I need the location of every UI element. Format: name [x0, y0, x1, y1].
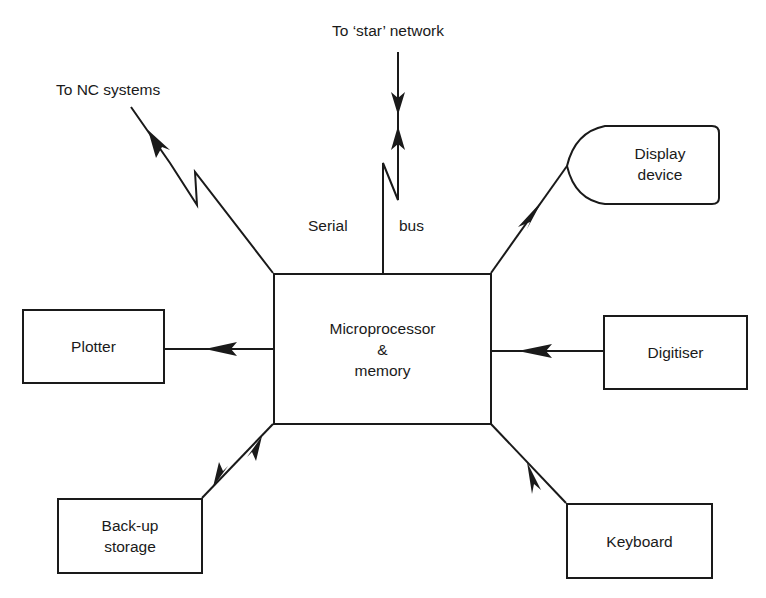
bus-label: bus [399, 216, 424, 236]
ampersand-label: & [377, 339, 387, 360]
backup-storage-box[interactable]: Back-up storage [57, 498, 203, 574]
keyboard-label: Keyboard [606, 531, 672, 552]
microprocessor-memory-box[interactable]: Microprocessor & memory [273, 273, 492, 425]
backup-label: Back-up [102, 515, 159, 536]
serial-label: Serial [308, 216, 348, 236]
nc-systems-label: To NC systems [56, 80, 160, 100]
star-network-label: To ‘star’ network [332, 21, 444, 41]
display-device-node[interactable]: Display device [600, 143, 720, 185]
plotter-label: Plotter [71, 336, 116, 357]
keyboard-box[interactable]: Keyboard [566, 503, 713, 579]
memory-label: memory [355, 360, 411, 381]
digitiser-box[interactable]: Digitiser [603, 315, 748, 390]
storage-label: storage [104, 536, 156, 557]
display-label: Display [600, 143, 720, 164]
plotter-box[interactable]: Plotter [22, 309, 165, 384]
digitiser-label: Digitiser [648, 342, 704, 363]
microprocessor-label: Microprocessor [330, 318, 436, 339]
device-label: device [600, 164, 720, 185]
